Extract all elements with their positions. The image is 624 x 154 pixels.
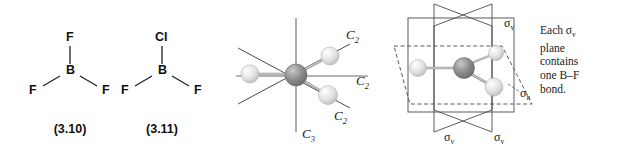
sigma-v-label-bottom-left: σv	[444, 130, 454, 146]
c2-axis-label-lower: C2	[334, 108, 347, 126]
mirror-planes-panel: σv σh σv σv	[392, 0, 538, 154]
sigma-v-label-right: σv	[504, 16, 514, 32]
bf3-atom-top: F	[66, 30, 74, 44]
sigma-v-label-bottom-right: σv	[494, 130, 504, 146]
c2-axis-label-upper: C2	[346, 27, 359, 45]
caption-line-4: one B–F	[540, 69, 624, 83]
bf3-atom-central: B	[66, 63, 75, 77]
lewis-structure-bclf2: Cl B F F (3.11)	[110, 0, 214, 154]
bclf2-atom-left: F	[121, 83, 129, 97]
caption-line-5: bond.	[540, 83, 624, 97]
bf3-caption: (3.10)	[18, 122, 122, 136]
bf3-atom-right: F	[102, 83, 110, 97]
rotation-axes-panel: C2 C2 C2 C3	[228, 0, 378, 154]
bclf2-atom-central: B	[158, 63, 167, 77]
caption-text-block: Each σv plane contains one B–F bond.	[540, 24, 624, 96]
bf3-atom-left: F	[29, 83, 37, 97]
caption-line-3: contains	[540, 55, 624, 69]
bclf2-atom-top: Cl	[155, 30, 168, 44]
caption-line-2: plane	[540, 42, 624, 56]
bclf2-caption: (3.11)	[110, 122, 214, 136]
c3-axis-label: C3	[302, 126, 315, 144]
c2-axis-label-horizontal: C2	[356, 73, 369, 91]
sigma-h-label: σh	[520, 86, 530, 102]
lewis-structure-bf3: F B F F (3.10)	[18, 0, 122, 154]
caption-line-1: Each σv	[540, 24, 624, 42]
mirror-planes-graphic	[392, 0, 538, 154]
bclf2-atom-right: F	[194, 83, 202, 97]
